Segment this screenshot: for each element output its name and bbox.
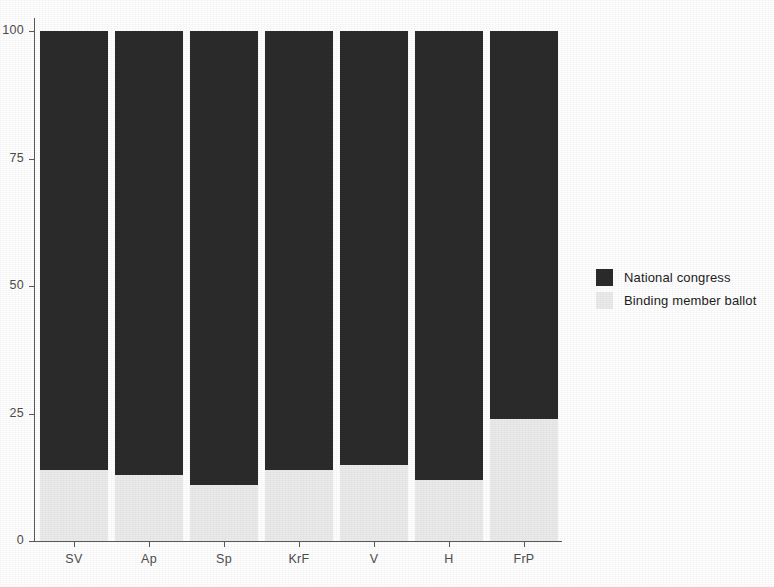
legend-label-binding-member-ballot: Binding member ballot: [624, 293, 757, 308]
x-axis-line: [34, 541, 562, 542]
bar-krf: [265, 31, 333, 541]
x-axis-tick-label: Sp: [184, 552, 264, 566]
y-axis-tick-label: 75: [0, 151, 24, 165]
bar-segment-binding-member-ballot: [490, 419, 558, 541]
bar-ap: [115, 31, 183, 541]
bar-sv: [40, 31, 108, 541]
bar-v: [340, 31, 408, 541]
x-axis-tick: [149, 542, 150, 547]
bar-frp: [490, 31, 558, 541]
bar-segment-binding-member-ballot: [340, 465, 408, 542]
bar-segment-binding-member-ballot: [265, 470, 333, 541]
y-axis-line: [34, 18, 35, 542]
y-axis-tick-label: 100: [0, 23, 24, 37]
x-axis-tick-label: SV: [34, 552, 114, 566]
bar-h: [415, 31, 483, 541]
legend-swatch-binding-member-ballot: [596, 292, 613, 309]
x-axis-tick-label: FrP: [484, 552, 564, 566]
y-axis-tick-label: 25: [0, 406, 24, 420]
y-axis-tick: [29, 159, 34, 160]
x-axis-tick: [449, 542, 450, 547]
y-axis-tick-label: 0: [0, 533, 24, 547]
x-axis-tick: [299, 542, 300, 547]
plot-area: 0255075100 SVApSpKrFVHFrP: [34, 18, 562, 542]
bar-segment-national-congress: [115, 31, 183, 475]
x-axis-tick-label: KrF: [259, 552, 339, 566]
legend-swatch-national-congress: [596, 269, 613, 286]
y-axis-tick: [29, 541, 34, 542]
y-axis-tick: [29, 286, 34, 287]
x-axis-tick: [74, 542, 75, 547]
legend-item: Binding member ballot: [596, 289, 774, 312]
chart-legend: National congress Binding member ballot: [596, 266, 774, 312]
bar-segment-national-congress: [415, 31, 483, 480]
bar-sp: [190, 31, 258, 541]
bar-segment-binding-member-ballot: [190, 485, 258, 541]
x-axis-tick: [524, 542, 525, 547]
bar-segment-national-congress: [340, 31, 408, 465]
legend-item: National congress: [596, 266, 774, 289]
x-axis-tick: [374, 542, 375, 547]
bar-segment-national-congress: [265, 31, 333, 470]
y-axis-tick: [29, 31, 34, 32]
bar-segment-binding-member-ballot: [115, 475, 183, 541]
x-axis-tick-label: H: [409, 552, 489, 566]
chart-figure: 0255075100 SVApSpKrFVHFrP National congr…: [0, 0, 774, 587]
bar-segment-national-congress: [490, 31, 558, 419]
bar-segment-binding-member-ballot: [415, 480, 483, 541]
bar-segment-national-congress: [40, 31, 108, 470]
y-axis-tick: [29, 414, 34, 415]
legend-label-national-congress: National congress: [624, 270, 731, 285]
x-axis-tick: [224, 542, 225, 547]
bar-segment-national-congress: [190, 31, 258, 485]
y-axis-tick-label: 50: [0, 278, 24, 292]
x-axis-tick-label: Ap: [109, 552, 189, 566]
bar-segment-binding-member-ballot: [40, 470, 108, 541]
x-axis-tick-label: V: [334, 552, 414, 566]
